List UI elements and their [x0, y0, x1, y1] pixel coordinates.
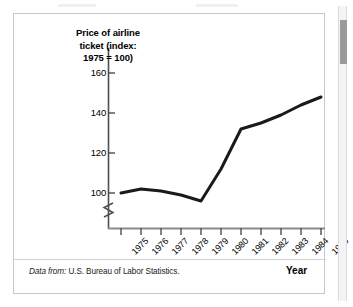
y-axis-title: Price of airline ticket (index: 1975 = 1… — [58, 27, 158, 65]
source-divider — [14, 259, 326, 260]
chart-plot-area: Price of airline ticket (index: 1975 = 1… — [14, 14, 326, 295]
y-tick-label-100: 100 — [76, 187, 106, 198]
y-axis-break-icon — [104, 203, 113, 217]
source-note: Data from: U.S. Bureau of Labor Statisti… — [29, 267, 179, 276]
source-note-prefix: Data from: — [29, 267, 66, 276]
data-series-line — [121, 97, 321, 201]
page-background: Price of airline ticket (index: 1975 = 1… — [0, 0, 353, 307]
y-axis-title-line-1: Price of airline — [58, 27, 158, 40]
source-note-text: U.S. Bureau of Labor Statistics. — [68, 267, 179, 276]
scan-artifact-right — [196, 4, 238, 7]
y-tick-label-160: 160 — [76, 67, 106, 78]
x-axis-title: Year — [286, 265, 307, 276]
scan-artifact-left — [58, 4, 96, 7]
scrollbar-thumb[interactable] — [340, 20, 347, 64]
chart-figure-card: Price of airline ticket (index: 1975 = 1… — [13, 13, 325, 294]
vertical-scrollbar[interactable] — [338, 6, 347, 301]
y-axis-title-line-2: ticket (index: — [58, 40, 158, 53]
y-axis-title-line-3: 1975 = 100) — [58, 52, 158, 65]
y-tick-label-140: 140 — [76, 107, 106, 118]
y-tick-label-120: 120 — [76, 147, 106, 158]
